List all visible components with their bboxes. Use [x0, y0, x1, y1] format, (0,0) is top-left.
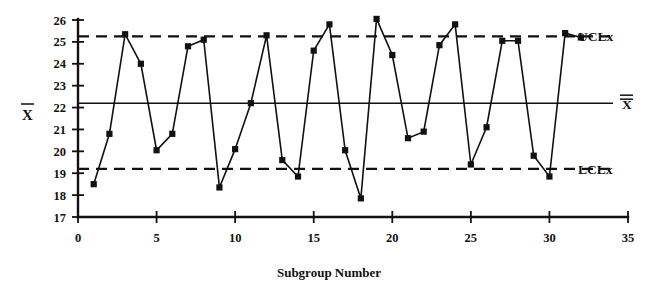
data-point-marker: [201, 37, 207, 43]
data-point-marker: [405, 135, 411, 141]
x-tick-label: 15: [307, 231, 320, 245]
x-tick-label: 0: [75, 231, 81, 245]
data-point-marker: [468, 161, 474, 167]
data-point-marker: [389, 52, 395, 58]
data-point-marker: [326, 21, 332, 27]
center-legend: X: [620, 95, 633, 112]
data-point-marker: [248, 100, 254, 106]
data-point-marker: [169, 131, 175, 137]
data-point-marker: [311, 48, 317, 54]
data-point-marker: [91, 181, 97, 187]
data-series-line: [94, 19, 581, 198]
x-tick-label: 25: [465, 231, 478, 245]
data-point-marker: [279, 157, 285, 163]
data-point-markers: [91, 16, 584, 202]
x-axis-tick-labels: 05101520253035: [75, 231, 634, 245]
data-point-marker: [515, 38, 521, 44]
data-point-marker: [421, 129, 427, 135]
x-tick-label: 10: [229, 231, 242, 245]
y-tick-label: 19: [54, 167, 67, 181]
y-tick-label: 26: [54, 14, 67, 28]
data-point-marker: [216, 184, 222, 190]
data-point-marker: [483, 124, 489, 130]
lcl-legend-label: LCLx: [578, 162, 613, 177]
data-point-marker: [295, 173, 301, 179]
data-point-marker: [546, 173, 552, 179]
y-tick-label: 18: [54, 189, 67, 203]
data-point-marker: [122, 31, 128, 37]
x-tick-label: 20: [386, 231, 399, 245]
y-tick-label: 17: [54, 211, 67, 225]
control-chart: 17181920212223242526 05101520253035 UCLx…: [0, 0, 658, 287]
data-point-marker: [185, 43, 191, 49]
y-axis-tick-labels: 17181920212223242526: [54, 14, 67, 225]
data-point-marker: [106, 131, 112, 137]
data-point-marker: [373, 16, 379, 22]
chart-canvas: 17181920212223242526 05101520253035 UCLx…: [0, 0, 658, 287]
y-tick-label: 22: [54, 101, 67, 115]
y-axis-title: X: [21, 104, 34, 123]
x-tick-label: 35: [622, 231, 635, 245]
data-point-marker: [153, 147, 159, 153]
y-axis-title-label: X: [22, 107, 33, 123]
data-point-marker: [138, 61, 144, 67]
data-point-marker: [436, 42, 442, 48]
y-tick-label: 21: [54, 123, 67, 137]
data-point-marker: [263, 32, 269, 38]
lcl-legend: LCLx: [578, 162, 613, 177]
x-tick-label: 30: [543, 231, 556, 245]
x-axis-title-label: Subgroup Number: [277, 265, 381, 280]
ucl-legend-label: UCLx: [578, 29, 614, 44]
data-point-marker: [452, 21, 458, 27]
data-point-marker: [531, 153, 537, 159]
y-tick-label: 20: [54, 145, 67, 159]
data-point-marker: [358, 195, 364, 201]
y-tick-label: 25: [54, 35, 67, 49]
x-tick-label: 5: [153, 231, 159, 245]
y-tick-label: 23: [54, 79, 67, 93]
ucl-legend: UCLx: [578, 29, 614, 44]
data-point-marker: [342, 147, 348, 153]
data-point-marker: [562, 30, 568, 36]
data-point-marker: [499, 38, 505, 44]
y-tick-label: 24: [54, 57, 67, 71]
data-point-marker: [232, 146, 238, 152]
